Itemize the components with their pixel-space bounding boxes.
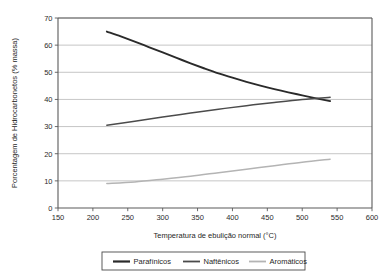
y-tick-label-30: 30 — [44, 122, 52, 131]
x-tick-label-350: 350 — [191, 213, 204, 222]
chart-canvas: 150200250300350400450500550600 010203040… — [0, 0, 386, 276]
x-tick-label-600: 600 — [366, 213, 379, 222]
x-tick-label-400: 400 — [226, 213, 239, 222]
legend-entries: ParafínicosNaftênicosAromáticos — [113, 257, 307, 266]
x-tick-label-500: 500 — [296, 213, 309, 222]
x-axis-title: Temperatura de ebulição normal (°C) — [153, 231, 277, 240]
chart-figure: 150200250300350400450500550600 010203040… — [0, 0, 386, 276]
y-tick-label-60: 60 — [44, 41, 52, 50]
x-tick-label-250: 250 — [122, 213, 135, 222]
y-tick-label-70: 70 — [44, 14, 52, 23]
y-tick-label-0: 0 — [48, 204, 52, 213]
x-tick-label-550: 550 — [331, 213, 344, 222]
y-axis-title: Porcentagem de Hidrocarbonetos (% massa) — [10, 37, 19, 188]
x-tick-label-450: 450 — [261, 213, 274, 222]
x-tick-label-300: 300 — [156, 213, 169, 222]
x-tick-label-200: 200 — [87, 213, 100, 222]
y-tick-label-40: 40 — [44, 95, 52, 104]
x-tick-label-150: 150 — [52, 213, 65, 222]
y-tick-label-50: 50 — [44, 68, 52, 77]
y-tick-label-10: 10 — [44, 177, 52, 186]
chart-legend: ParafínicosNaftênicosAromáticos — [102, 252, 307, 270]
legend-label-aromaticos: Aromáticos — [270, 257, 308, 266]
legend-label-naftenicos: Naftênicos — [204, 257, 240, 266]
y-tick-label-20: 20 — [44, 150, 52, 159]
legend-label-parafinicos: Parafínicos — [134, 257, 172, 266]
